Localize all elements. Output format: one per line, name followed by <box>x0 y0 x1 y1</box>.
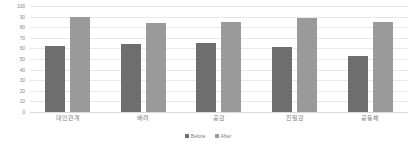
y-axis-tick-label: 90 <box>20 14 25 19</box>
bar-after <box>70 17 90 112</box>
legend-item-after[interactable]: After <box>215 134 232 139</box>
bar-group <box>106 6 182 112</box>
x-axis: 대인관계배려공감친밀감공동체 <box>30 114 408 128</box>
bar-after <box>297 18 317 112</box>
x-axis-label: 공동체 <box>332 114 408 128</box>
y-axis-tick-label: 0 <box>22 110 25 115</box>
y-axis-tick-label: 70 <box>20 35 25 40</box>
y-axis-tick-label: 60 <box>20 46 25 51</box>
legend-swatch-icon <box>185 134 189 138</box>
bar-group <box>257 6 333 112</box>
y-axis-tick-label: 100 <box>17 4 25 9</box>
legend-swatch-icon <box>215 134 219 138</box>
gridline <box>30 112 408 113</box>
legend-label: After <box>221 134 232 139</box>
y-axis-tick-label: 80 <box>20 25 25 30</box>
bar-before <box>196 43 216 112</box>
y-axis-tick-label: 20 <box>20 88 25 93</box>
x-axis-label: 친밀감 <box>257 114 333 128</box>
bar-group <box>332 6 408 112</box>
bar-after <box>221 22 241 112</box>
y-axis-tick-label: 40 <box>20 67 25 72</box>
x-axis-label: 대인관계 <box>30 114 106 128</box>
bar-group <box>30 6 106 112</box>
bar-chart: 0102030405060708090100 대인관계배려공감친밀감공동체 Be… <box>0 0 416 144</box>
y-axis: 0102030405060708090100 <box>0 6 28 112</box>
bar-after <box>146 23 166 112</box>
bar-before <box>45 46 65 112</box>
bar-before <box>272 47 292 112</box>
bars-layer <box>30 6 408 112</box>
x-axis-label: 배려 <box>106 114 182 128</box>
bar-group <box>181 6 257 112</box>
legend-item-before[interactable]: Before <box>185 134 206 139</box>
y-axis-tick-label: 50 <box>20 57 25 62</box>
bar-before <box>348 56 368 112</box>
bar-before <box>121 44 141 112</box>
y-axis-tick-label: 30 <box>20 78 25 83</box>
chart-legend: BeforeAfter <box>0 131 416 141</box>
legend-label: Before <box>191 134 206 139</box>
bar-after <box>373 22 393 112</box>
x-axis-label: 공감 <box>181 114 257 128</box>
y-axis-tick-label: 10 <box>20 99 25 104</box>
